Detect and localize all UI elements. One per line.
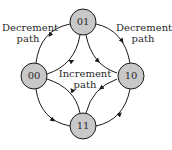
node-01-label: 01 <box>70 16 96 28</box>
node-00-label: 00 <box>21 70 47 82</box>
label-line: Decrement <box>116 22 170 33</box>
label-line: Decrement <box>2 22 54 33</box>
node-11-label: 11 <box>70 120 96 132</box>
edge-11-10 <box>96 89 130 126</box>
label-line: path <box>116 33 170 44</box>
label-line: path <box>58 79 112 90</box>
decrement-path-label-right: Decrement path <box>116 22 170 44</box>
increment-path-label: Increment path <box>58 68 112 90</box>
decrement-path-label-left: Decrement path <box>2 22 54 44</box>
state-diagram: 01 00 10 11 Decrement path Decrement pat… <box>0 0 172 150</box>
edge-00-11 <box>36 89 70 126</box>
label-line: path <box>2 33 54 44</box>
label-line: Increment <box>58 68 112 79</box>
node-10-label: 10 <box>118 70 144 82</box>
